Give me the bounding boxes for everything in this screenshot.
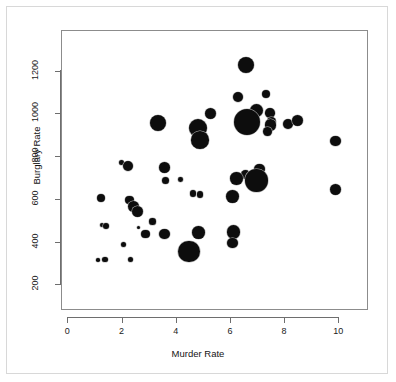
data-point xyxy=(121,242,126,247)
data-point xyxy=(96,258,100,262)
y-axis-tick xyxy=(55,156,60,157)
data-point xyxy=(128,257,134,263)
data-point xyxy=(123,161,133,171)
y-axis-tick xyxy=(55,71,60,72)
x-axis-tick-label: 4 xyxy=(163,326,189,336)
y-axis-tick xyxy=(55,284,60,285)
data-point xyxy=(230,172,242,184)
x-axis-tick xyxy=(230,318,231,323)
data-point xyxy=(178,177,183,182)
data-point xyxy=(149,218,156,225)
x-axis-tick xyxy=(67,318,68,323)
data-point xyxy=(191,131,209,149)
y-axis-tick-label: 1200 xyxy=(30,53,40,87)
data-point xyxy=(205,108,216,119)
x-axis-tick xyxy=(122,318,123,323)
data-point xyxy=(197,191,203,197)
y-axis-tick xyxy=(55,199,60,200)
x-axis-tick-label: 6 xyxy=(217,326,243,336)
data-point xyxy=(227,225,240,238)
y-axis-tick xyxy=(55,242,60,243)
data-point xyxy=(97,194,105,202)
data-point xyxy=(292,115,303,126)
x-axis-title: Murder Rate xyxy=(0,348,396,359)
data-point xyxy=(102,257,107,262)
data-point xyxy=(233,92,243,102)
y-axis-tick xyxy=(55,113,60,114)
data-point xyxy=(141,230,150,239)
data-point xyxy=(132,206,143,217)
data-point xyxy=(234,109,260,135)
chart-page: 20040060080010001200 Burglary Rate 02468… xyxy=(0,0,396,382)
plot-area xyxy=(61,30,368,310)
y-axis-title: Burglary Rate xyxy=(31,116,42,196)
data-point xyxy=(227,238,238,249)
data-point xyxy=(159,162,170,173)
x-axis-tick xyxy=(284,318,285,323)
data-point xyxy=(330,184,341,195)
x-axis-tick xyxy=(176,318,177,323)
x-axis-tick-label: 2 xyxy=(109,326,135,336)
y-axis-tick-label: 400 xyxy=(30,224,40,258)
x-axis-tick-label: 10 xyxy=(325,326,351,336)
data-point xyxy=(262,90,270,98)
data-point xyxy=(263,127,272,136)
data-point xyxy=(103,223,109,229)
data-point xyxy=(330,136,341,147)
data-point xyxy=(178,241,200,263)
data-point xyxy=(238,57,255,74)
data-point xyxy=(137,226,140,229)
data-point xyxy=(190,190,197,197)
x-axis-tick-label: 0 xyxy=(54,326,80,336)
data-point xyxy=(245,169,267,191)
data-point xyxy=(162,177,169,184)
data-point xyxy=(150,115,166,131)
data-point xyxy=(192,226,205,239)
x-axis-tick xyxy=(338,318,339,323)
y-axis-tick-label: 200 xyxy=(30,266,40,300)
data-point xyxy=(226,190,239,203)
data-point xyxy=(159,229,169,239)
x-axis-tick-label: 8 xyxy=(271,326,297,336)
x-axis-line xyxy=(67,317,339,318)
